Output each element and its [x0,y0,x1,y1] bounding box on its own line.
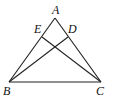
label-a: A [51,3,60,17]
segment-ab [9,18,55,82]
triangle-diagram: A E D B C [0,0,115,100]
label-d: D [67,22,77,36]
segment-ac [55,18,101,82]
label-b: B [3,84,11,98]
segment-bd [9,37,68,82]
label-c: C [96,84,105,98]
segment-ce [42,37,101,82]
label-e: E [33,22,42,36]
